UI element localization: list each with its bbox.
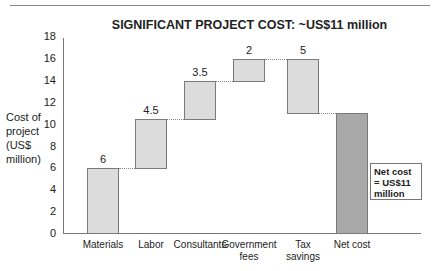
y-tick: 18 bbox=[36, 30, 56, 42]
y-tick: 2 bbox=[36, 205, 56, 217]
y-tick: 4 bbox=[36, 183, 56, 195]
y-tick: 14 bbox=[36, 74, 56, 86]
value-label: 5 bbox=[283, 44, 323, 56]
y-axis bbox=[63, 38, 64, 234]
connector bbox=[216, 81, 233, 82]
y-tick: 10 bbox=[36, 118, 56, 130]
connector bbox=[167, 119, 184, 120]
bar-labor bbox=[135, 119, 167, 169]
top-rule bbox=[10, 5, 430, 6]
bar-consultants bbox=[184, 81, 216, 120]
chart-title: SIGNIFICANT PROJECT COST: ~US$11 million bbox=[0, 18, 439, 32]
y-tick: 0 bbox=[36, 227, 56, 239]
value-label: 2 bbox=[229, 44, 269, 56]
bar-tax-savings bbox=[287, 59, 319, 114]
connector bbox=[319, 113, 336, 114]
value-label: 6 bbox=[83, 153, 123, 165]
value-label: 4.5 bbox=[131, 104, 171, 116]
bar-net-cost bbox=[336, 113, 368, 234]
bar-materials bbox=[87, 168, 119, 234]
y-tick: 12 bbox=[36, 96, 56, 108]
bar-government-fees bbox=[233, 59, 265, 82]
connector bbox=[119, 168, 135, 169]
value-label: 3.5 bbox=[180, 66, 220, 78]
x-label: Government fees bbox=[217, 239, 281, 263]
y-tick: 8 bbox=[36, 140, 56, 152]
y-tick: 16 bbox=[36, 52, 56, 64]
x-label: Net cost bbox=[320, 239, 384, 251]
x-label: Tax savings bbox=[285, 239, 321, 263]
net-cost-annotation: Net cost = US$11 million bbox=[370, 163, 422, 200]
y-tick: 6 bbox=[36, 161, 56, 173]
connector bbox=[265, 59, 287, 60]
